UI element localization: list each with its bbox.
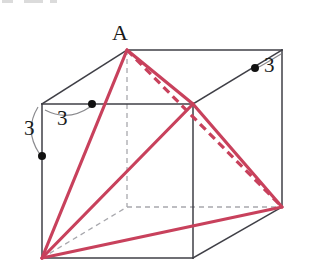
midpoint-dot-left-edge — [38, 152, 46, 160]
length-label-left: 3 — [24, 118, 35, 139]
red-line-corner-to-back-bottom-right — [42, 207, 282, 258]
edge-connect-bottom-right — [193, 207, 282, 258]
length-label-right: 3 — [264, 55, 275, 76]
red-dashed-diagonal-apex-to-back-bottom-right — [127, 50, 282, 207]
length-label-top: 3 — [57, 108, 68, 129]
geometry-figure: A 3 3 3 — [0, 0, 311, 275]
red-line-front-top-right-to-back-bottom-right — [193, 104, 282, 207]
solid-edges-group — [42, 50, 282, 258]
red-line-apex-to-front-top-right — [127, 50, 193, 104]
midpoint-dot-top-edge — [88, 100, 96, 108]
cube-wireframe-svg — [0, 0, 311, 275]
vertex-label-A: A — [112, 22, 128, 44]
arc-guide-top-edge — [45, 107, 90, 115]
marker-dots-group — [38, 64, 259, 160]
red-line-corner-to-apex — [42, 50, 127, 258]
midpoint-dot-right-edge — [251, 64, 259, 72]
red-dashed-diagonal-group — [127, 50, 282, 207]
